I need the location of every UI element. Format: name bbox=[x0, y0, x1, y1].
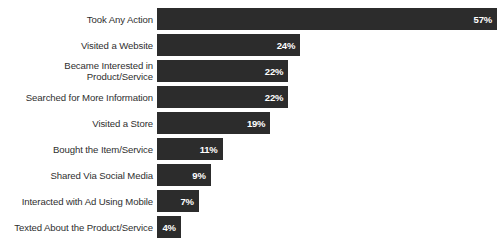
bar-track: 7% bbox=[157, 190, 503, 212]
bar: 7% bbox=[157, 190, 199, 212]
bar: 24% bbox=[157, 34, 300, 56]
bar-row: Interacted with Ad Using Mobile7% bbox=[0, 190, 503, 212]
bar-value-label: 22% bbox=[265, 66, 283, 77]
bar: 19% bbox=[157, 112, 270, 134]
category-label: Interacted with Ad Using Mobile bbox=[0, 190, 157, 212]
bar-value-label: 9% bbox=[192, 170, 205, 181]
category-label: Texted About the Product/Service bbox=[0, 216, 157, 238]
bar-track: 9% bbox=[157, 164, 503, 186]
bar-rows: Took Any Action57%Visited a Website24%Be… bbox=[0, 8, 503, 242]
bar: 4% bbox=[157, 216, 181, 238]
bar-row: Became Interested in Product/Service22% bbox=[0, 60, 503, 82]
chart-title bbox=[0, 0, 503, 6]
category-label: Searched for More Information bbox=[0, 86, 157, 108]
bar-track: 24% bbox=[157, 34, 503, 56]
bar-row: Shared Via Social Media9% bbox=[0, 164, 503, 186]
category-label: Took Any Action bbox=[0, 8, 157, 30]
bar-value-label: 24% bbox=[277, 40, 295, 51]
bar: 57% bbox=[157, 8, 497, 30]
bar-track: 57% bbox=[157, 8, 503, 30]
category-label: Visited a Website bbox=[0, 34, 157, 56]
bar: 11% bbox=[157, 138, 223, 160]
bar: 22% bbox=[157, 86, 288, 108]
bar-row: Visited a Website24% bbox=[0, 34, 503, 56]
bar-track: 11% bbox=[157, 138, 503, 160]
category-label: Became Interested in Product/Service bbox=[0, 60, 157, 82]
bar-track: 22% bbox=[157, 60, 503, 82]
bar-value-label: 57% bbox=[474, 14, 492, 25]
bar-track: 4% bbox=[157, 216, 503, 238]
bar-row: Searched for More Information22% bbox=[0, 86, 503, 108]
bar-track: 19% bbox=[157, 112, 503, 134]
category-label: Shared Via Social Media bbox=[0, 164, 157, 186]
bar-row: Visited a Store19% bbox=[0, 112, 503, 134]
bar-row: Texted About the Product/Service4% bbox=[0, 216, 503, 238]
bar-value-label: 4% bbox=[163, 222, 176, 233]
bar-chart: Took Any Action57%Visited a Website24%Be… bbox=[0, 0, 503, 250]
bar: 22% bbox=[157, 60, 288, 82]
category-label: Bought the Item/Service bbox=[0, 138, 157, 160]
bar-row: Bought the Item/Service11% bbox=[0, 138, 503, 160]
bar-value-label: 7% bbox=[180, 196, 193, 207]
bar-value-label: 19% bbox=[247, 118, 265, 129]
category-label: Visited a Store bbox=[0, 112, 157, 134]
bar: 9% bbox=[157, 164, 211, 186]
bar-row: Took Any Action57% bbox=[0, 8, 503, 30]
bar-value-label: 11% bbox=[200, 144, 218, 155]
bar-value-label: 22% bbox=[265, 92, 283, 103]
bar-track: 22% bbox=[157, 86, 503, 108]
